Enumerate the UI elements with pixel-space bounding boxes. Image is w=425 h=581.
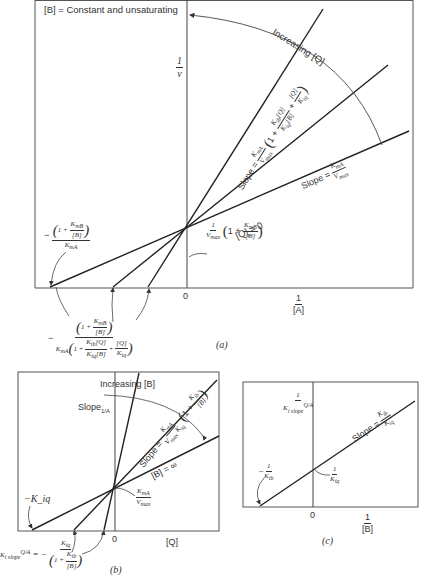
origin-label-c: 0 bbox=[310, 511, 315, 520]
x-intercept-label-b: Ki slopeQ/A = − Kiq(1 + Kib[B]) bbox=[0, 540, 82, 570]
condition-label: [B] = Constant and unsaturating bbox=[44, 5, 178, 15]
x-axis-label-b: [Q] bbox=[166, 538, 178, 547]
panel-a-lines bbox=[50, 9, 409, 287]
kiq-callout bbox=[28, 506, 32, 528]
xint-q0-callout bbox=[51, 252, 66, 285]
x-intercept-q-label: − (1 + KmB[B])KmA(1 + Kib[Q]Kiq[B] + [Q]… bbox=[48, 318, 133, 359]
y-intercept-label-a: 1Vmax (1 + KmB[B]) bbox=[206, 222, 263, 240]
y-axis-label-a: 1v bbox=[176, 56, 183, 79]
panel-c-label: (c) bbox=[322, 536, 333, 546]
panel-a-label: (a) bbox=[216, 340, 228, 350]
kiq-c-callout bbox=[314, 469, 330, 475]
x-intercept-inf-label: −K_iq bbox=[24, 494, 50, 504]
xint-callout-2 bbox=[136, 289, 149, 320]
origin-label-a: 0 bbox=[183, 292, 188, 301]
increasing-b-label: Increasing [B] bbox=[100, 380, 155, 389]
x-axis-c-den: [B] bbox=[362, 524, 373, 534]
yint-callout bbox=[189, 253, 207, 257]
x-intercept-q0-label: − (1 + KmB[B])KmA bbox=[44, 221, 90, 251]
xint-callout-1 bbox=[112, 288, 113, 322]
x-axis-den: [A] bbox=[293, 305, 304, 315]
x-axis-label-a: 1[A] bbox=[293, 294, 304, 315]
x-axis-c-num: 1 bbox=[364, 513, 371, 524]
kib-callout bbox=[257, 478, 264, 504]
x-axis-num: 1 bbox=[295, 294, 302, 305]
panel-b-label: (b) bbox=[110, 565, 122, 575]
y-axis-num: 1 bbox=[176, 56, 183, 68]
y-intercept-label-c: 1Kiq bbox=[330, 466, 339, 484]
x-axis-label-c: 1[B] bbox=[362, 513, 373, 534]
origin-label-b: 0 bbox=[112, 535, 117, 544]
panel-c-frame bbox=[243, 382, 418, 507]
kislope-callout-2 bbox=[82, 531, 104, 554]
y-axis-label-c: 1Ki slopeQ/A bbox=[283, 392, 313, 414]
y-axis-den: v bbox=[177, 68, 181, 79]
callout-arrow bbox=[56, 287, 69, 316]
diagram-graphics bbox=[0, 0, 425, 581]
panel-a-frame bbox=[35, 0, 413, 288]
yint-b-callout bbox=[116, 488, 135, 496]
slope-1a-label: Slope1/A bbox=[78, 403, 110, 414]
y-intercept-label-b: KmAVmax bbox=[136, 488, 151, 508]
x-intercept-label-c: −1Kib bbox=[258, 463, 273, 481]
